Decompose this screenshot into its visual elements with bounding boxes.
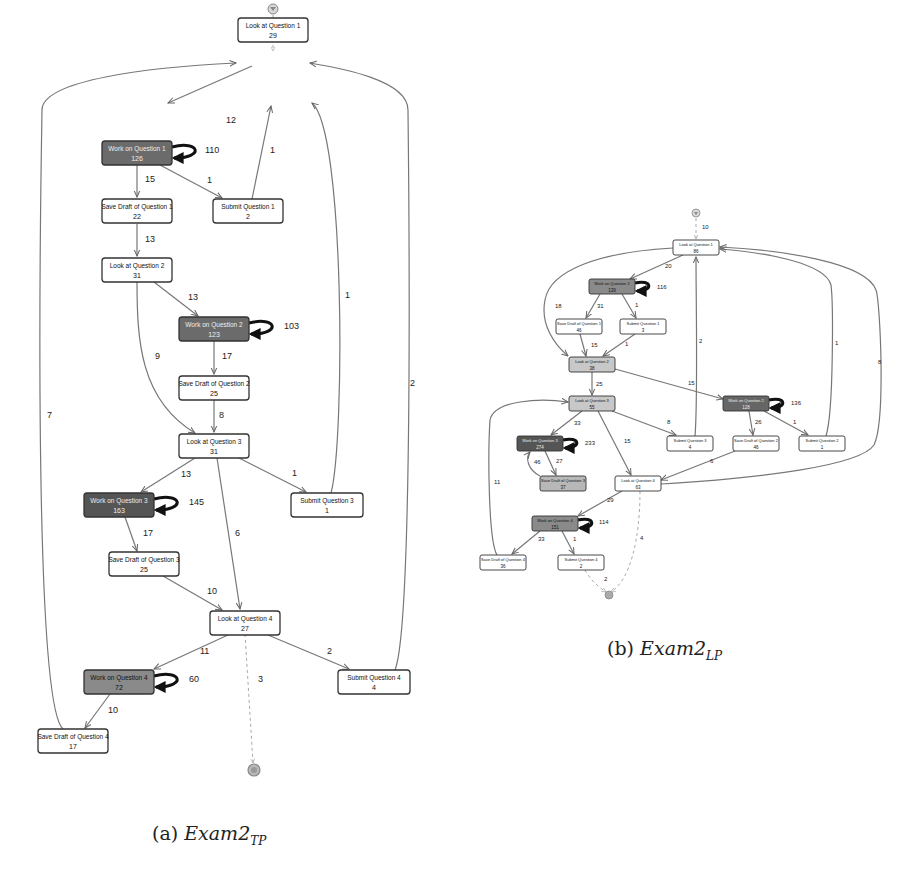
edge-label: 2	[699, 338, 703, 344]
edge-L4-U4	[268, 635, 349, 669]
self-loop-W4	[154, 674, 177, 687]
activity-node-u1: Submit Question 12	[213, 199, 283, 223]
node-label: Submit Question 1	[221, 203, 275, 211]
edge-label: 13	[181, 469, 191, 479]
node-label: Save Draft of Question 1	[101, 203, 173, 211]
activity-node-u3: Submit Question 34	[667, 436, 713, 451]
edge-U3-L1	[312, 103, 340, 493]
edge-L4-W4	[154, 635, 228, 669]
node-label: Work on Question 3	[522, 438, 558, 443]
node-label: Save Draft of Question 4	[37, 733, 109, 741]
node-label: Work on Question 1	[594, 281, 630, 286]
edge-label: 11	[200, 646, 209, 656]
activity-node-u3: Submit Question 31	[291, 493, 363, 517]
activity-node-s3: Save Draft of Question 337	[540, 476, 586, 491]
edge-label: 25	[596, 381, 603, 387]
edge-label: 1	[793, 419, 797, 425]
self-loop-W3	[563, 439, 577, 448]
node-label: Work on Question 2	[728, 398, 764, 403]
edge-U1-L2	[603, 334, 635, 356]
edge-label: 8	[667, 419, 671, 425]
edge-L1-W1	[630, 255, 683, 279]
edge-label: 11	[494, 479, 501, 485]
node-count: 86	[693, 249, 699, 254]
edge-label: 1	[573, 536, 577, 542]
caption-b-prefix: (b)	[607, 637, 634, 659]
caption-b: (b) Exam2LP	[607, 637, 722, 663]
node-label: Save Draft of Question 2	[178, 380, 250, 388]
node-count: 25	[210, 390, 218, 397]
edge-label: 46	[534, 459, 541, 465]
edge-label: 145	[189, 497, 204, 507]
edge-label: 27	[556, 458, 563, 464]
edge-label: 33	[538, 536, 545, 542]
node-count: 1	[325, 507, 329, 514]
node-count: 46	[753, 445, 759, 450]
edge-label: 15	[145, 174, 155, 184]
node-count: 151	[551, 525, 559, 530]
activity-node-w1: Work on Question 1126	[102, 141, 172, 165]
node-count: 274	[536, 445, 544, 450]
diagram-b: 10 2 4 20 116 31 1 18 15 1 25 15 136 26 …	[489, 209, 882, 599]
edge-S2-L4	[661, 451, 735, 480]
node-count: 2	[246, 213, 250, 220]
process-map-figure: 7 3 12 110 15 1 1 13 13 9 103 17 8 13	[0, 0, 917, 884]
edge-label: 114	[599, 519, 609, 525]
node-label: Save Draft of Question 4	[481, 557, 526, 562]
activity-node-w2: Work on Question 2128	[723, 396, 769, 411]
activity-node-s4: Save Draft of Question 436	[480, 555, 526, 570]
node-label: Submit Question 3	[674, 438, 708, 443]
edge-label: 12	[226, 115, 236, 125]
edge-label: 1	[625, 341, 629, 347]
node-count: 38	[589, 366, 595, 371]
edge-label: 60	[189, 674, 199, 684]
edge-label: 20	[665, 263, 672, 269]
edge-label: 31	[597, 303, 604, 309]
edge-label: 136	[791, 400, 802, 406]
node-label: Look at Question 1	[679, 242, 713, 247]
node-label: Submit Question 4	[347, 674, 401, 682]
edge-label: 103	[284, 321, 299, 331]
edge-L2-W2	[615, 369, 723, 399]
node-count: 22	[133, 213, 141, 220]
edge-L4-end	[611, 491, 640, 592]
activity-node-l2: Look at Question 238	[569, 357, 615, 372]
edge-label: 6	[235, 528, 240, 538]
caption-b-main: Exam2	[640, 637, 706, 659]
edge-label: 18	[555, 303, 562, 309]
edge-W1-U1	[160, 165, 222, 198]
activity-node-w4: Work on Question 4151	[532, 516, 578, 531]
caption-a-main: Exam2	[184, 822, 250, 844]
edge-label: 2	[410, 378, 415, 388]
node-label: Look at Question 2	[110, 262, 165, 270]
end-event-b	[605, 591, 613, 599]
node-label: Save Draft of Question 3	[108, 556, 180, 564]
node-count: 37	[560, 485, 566, 490]
node-count: 55	[589, 405, 595, 410]
node-label: Look at Question 3	[187, 438, 242, 446]
node-label: Submit Question 4	[565, 557, 599, 562]
edge-W1-U1	[622, 294, 636, 318]
activity-node-s3: Save Draft of Question 325	[108, 552, 180, 576]
self-loop-W4	[578, 519, 592, 528]
node-count: 46	[576, 328, 582, 333]
edge-label: 1	[270, 145, 275, 155]
edge-label: 1	[207, 175, 212, 185]
edge-L1-L2	[544, 248, 673, 356]
edge-label: 1	[835, 340, 839, 346]
node-label: Work on Question 2	[185, 321, 243, 329]
self-loop-W3	[154, 497, 177, 510]
node-count: 163	[113, 507, 125, 514]
edge-label-end: 4	[640, 535, 644, 541]
caption-a: (a) Exam2TP	[152, 822, 266, 848]
end-circle-icon	[605, 591, 613, 599]
caption-a-prefix: (a)	[152, 822, 178, 844]
edge-label: 29	[607, 497, 614, 503]
edge-S1-L2	[580, 334, 586, 356]
edge-label: 15	[624, 438, 631, 444]
self-loop-W2	[769, 399, 783, 408]
activity-node-l3: Look at Question 355	[569, 396, 615, 411]
edge-label: 1	[345, 290, 350, 300]
activity-node-w2: Work on Question 2123	[179, 317, 249, 341]
node-count: 123	[208, 331, 220, 338]
